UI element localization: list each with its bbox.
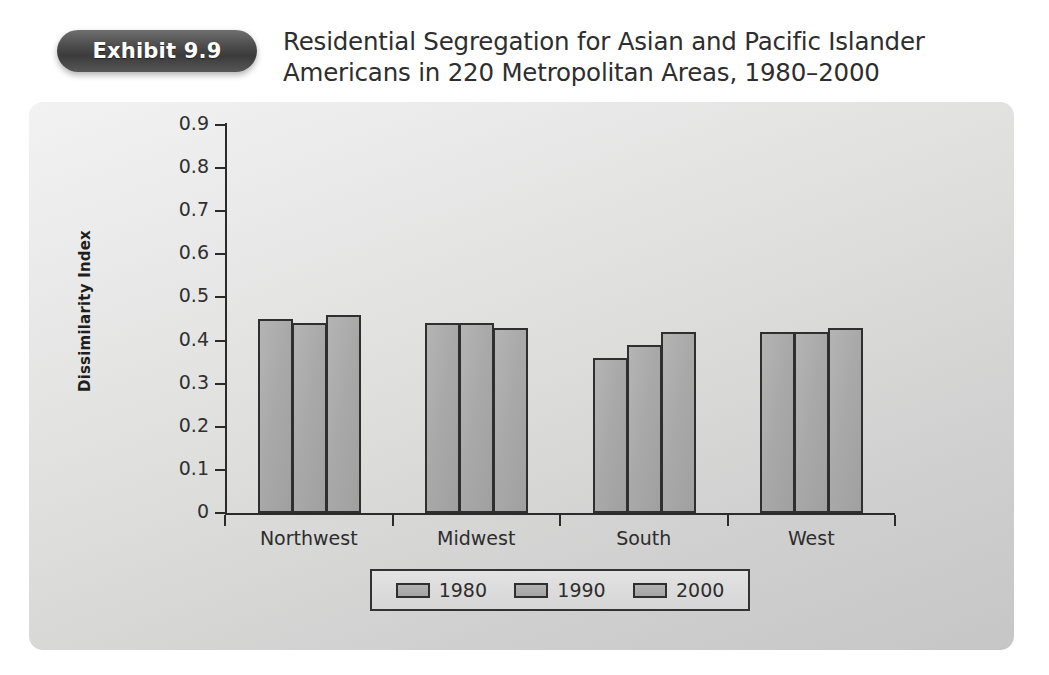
legend-item-1990[interactable]: 1990 (514, 579, 605, 601)
y-axis-tick-label: 0.6 (141, 241, 209, 265)
legend-swatch-icon (396, 583, 430, 598)
exhibit-badge-label: Exhibit 9.9 (92, 39, 221, 63)
legend-swatch-icon (514, 583, 548, 598)
bar-northwest-1990 (292, 323, 327, 513)
y-axis-tick-label: 0.8 (141, 155, 209, 179)
y-axis-tick-label: 0.7 (141, 198, 209, 222)
chart-panel: Dissimilarity Index 00.10.20.30.40.50.60… (29, 102, 1014, 650)
bar-west-2000 (828, 328, 863, 513)
x-axis-label-west: West (731, 527, 891, 549)
y-axis-tick-label-text: 0.9 (149, 112, 209, 134)
y-axis-tick (215, 340, 225, 342)
y-axis-tick-label-text: 0.6 (149, 241, 209, 263)
y-axis-tick-label: 0.4 (141, 328, 209, 352)
bar-west-1980 (760, 332, 795, 513)
y-axis-tick (215, 469, 225, 471)
x-axis-label-northwest: Northwest (229, 527, 389, 549)
y-axis-tick-label: 0.5 (141, 284, 209, 308)
bar-south-2000 (661, 332, 696, 513)
y-axis-tick-label-text: 0.2 (149, 414, 209, 436)
bar-midwest-1990 (459, 323, 494, 513)
y-axis-tick-label: 0.2 (141, 414, 209, 438)
y-axis-tick-label-text: 0.1 (149, 457, 209, 479)
y-axis-tick (215, 124, 225, 126)
y-axis-tick (215, 296, 225, 298)
y-axis-tick-label-text: 0.5 (149, 284, 209, 306)
legend-item-2000[interactable]: 2000 (633, 579, 724, 601)
y-axis-tick-label-text: 0.4 (149, 328, 209, 350)
y-axis-tick-label: 0.9 (141, 112, 209, 136)
legend-swatch-icon (633, 583, 667, 598)
y-axis-tick (215, 167, 225, 169)
bar-northwest-1980 (258, 319, 293, 513)
bar-south-1990 (627, 345, 662, 513)
bar-south-1980 (593, 358, 628, 513)
y-axis-tick-label: 0.3 (141, 371, 209, 395)
y-axis-tick-label-text: 0 (149, 500, 209, 522)
y-axis-tick (215, 383, 225, 385)
y-axis-tick (215, 426, 225, 428)
legend-item-1980[interactable]: 1980 (396, 579, 487, 601)
page-title-line-2: Americans in 220 Metropolitan Areas, 198… (283, 57, 983, 88)
bar-northwest-2000 (326, 315, 361, 513)
y-axis-tick-label: 0.1 (141, 457, 209, 481)
legend-label: 2000 (676, 579, 724, 601)
y-axis-tick-label-text: 0.7 (149, 198, 209, 220)
y-axis-tick-label-text: 0.8 (149, 155, 209, 177)
exhibit-badge: Exhibit 9.9 (57, 30, 257, 72)
bar-west-1990 (794, 332, 829, 513)
y-axis-tick (215, 210, 225, 212)
y-axis-line (225, 123, 227, 515)
x-axis-tick (727, 515, 729, 526)
y-axis-tick (215, 512, 225, 514)
page-title: Residential Segregation for Asian and Pa… (283, 26, 983, 88)
chart-legend: 198019902000 (370, 569, 750, 611)
y-axis-tick-label: 0 (141, 500, 209, 524)
y-axis-tick-label-text: 0.3 (149, 371, 209, 393)
y-axis-title: Dissimilarity Index (76, 226, 94, 396)
plot-area: Dissimilarity Index 00.10.20.30.40.50.60… (29, 102, 1014, 650)
legend-label: 1990 (557, 579, 605, 601)
x-axis-tick (894, 515, 896, 526)
exhibit-header: Exhibit 9.9 Residential Segregation for … (0, 0, 1049, 100)
x-axis-tick (224, 515, 226, 526)
x-axis-label-midwest: Midwest (396, 527, 556, 549)
page-title-line-1: Residential Segregation for Asian and Pa… (283, 26, 983, 57)
x-axis-tick (559, 515, 561, 526)
legend-label: 1980 (439, 579, 487, 601)
bar-midwest-1980 (425, 323, 460, 513)
x-axis-label-south: South (564, 527, 724, 549)
bar-midwest-2000 (493, 328, 528, 513)
y-axis-tick (215, 253, 225, 255)
x-axis-tick (392, 515, 394, 526)
